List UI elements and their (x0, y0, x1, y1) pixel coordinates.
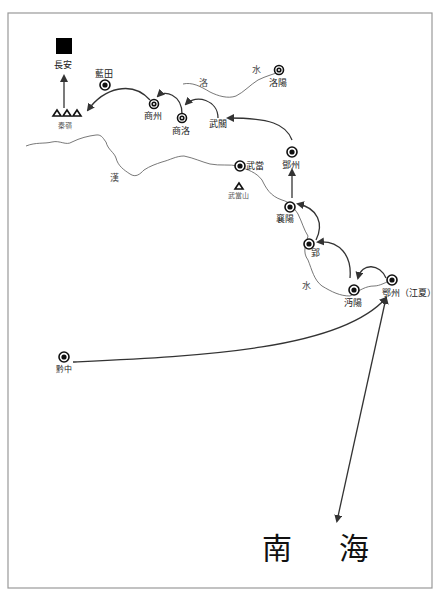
label-mianyang: 沔陽 (344, 298, 362, 308)
route-ezhou-mianyang (358, 267, 386, 278)
label-south-sea-1: 南 (262, 533, 292, 565)
city-marker-qianzhong-icon (59, 352, 69, 362)
map-frame (8, 13, 432, 588)
luo-river (183, 71, 282, 97)
label-wuguan: 武關 (209, 119, 227, 129)
route-mianyang-ying (318, 242, 350, 278)
route-wuguan-shangluo (186, 99, 218, 118)
label-shangluo: 商洛 (172, 126, 190, 136)
mountain-triangles-icon (53, 110, 81, 116)
label-lantian: 藍田 (95, 69, 113, 79)
city-marker-ezhou-icon (387, 275, 397, 285)
label-han-river-2: 水 (302, 281, 311, 291)
label-han-river-1: 漢 (110, 173, 119, 183)
city-marker-shangluo-icon (178, 114, 187, 123)
mountain-triangle-icon (235, 183, 243, 189)
label-wudang: 武當 (246, 161, 264, 171)
route-ezhou-nanhai (337, 298, 386, 521)
route-dengzhou-wuguan (228, 118, 292, 140)
label-shangzhou: 商州 (144, 111, 162, 121)
route-map (0, 0, 439, 596)
route-shangzhou-qinling (88, 89, 150, 110)
label-luo-river-2: 水 (252, 65, 261, 75)
label-luo-river-1: 洛 (199, 78, 208, 88)
label-dengzhou: 鄧州 (282, 160, 300, 170)
label-qianzhong: 黔中 (56, 365, 72, 375)
label-luoyang: 洛陽 (269, 78, 287, 88)
city-marker-luoyang-icon (275, 66, 284, 75)
label-ying: 郢 (311, 248, 320, 258)
city-marker-lantian-icon (100, 80, 110, 90)
city-marker-wudang-icon (235, 161, 245, 171)
label-qinling: 秦嶺 (58, 121, 72, 131)
city-marker-xiangyang-icon (285, 202, 295, 212)
route-qianzhong-ezhou (73, 298, 386, 362)
label-ezhou: 鄂州（江夏） (382, 288, 436, 298)
han-river (26, 135, 392, 296)
capital-square-icon (56, 38, 72, 54)
label-changan: 長安 (54, 60, 72, 70)
label-south-sea-2: 海 (339, 533, 369, 565)
city-marker-dengzhou-icon (287, 147, 297, 157)
label-wudangshan: 武當山 (228, 191, 249, 201)
city-marker-shangzhou-icon (150, 100, 159, 109)
label-xiangyang: 襄陽 (276, 214, 294, 224)
city-marker-mianyang-icon (349, 285, 359, 295)
